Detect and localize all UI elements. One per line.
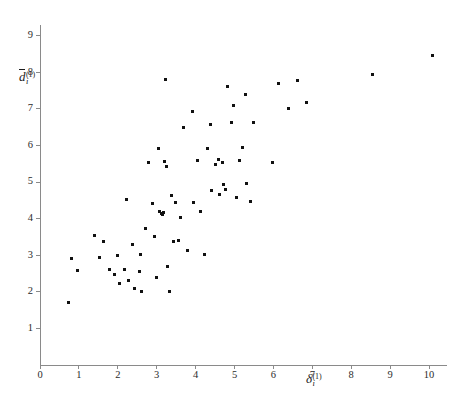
data-point <box>252 121 255 124</box>
y-tick-label: 5 <box>28 175 33 186</box>
y-tick-label: 2 <box>28 285 33 296</box>
y-axis-superscript: (1) <box>26 70 35 79</box>
data-point <box>162 211 165 214</box>
data-point <box>133 287 136 290</box>
data-point <box>140 290 143 293</box>
data-point <box>305 101 308 104</box>
data-point <box>371 73 374 76</box>
x-tick-label: 3 <box>154 369 159 380</box>
data-point <box>155 276 158 279</box>
data-point <box>431 54 434 57</box>
x-tick-label: 5 <box>232 369 237 380</box>
data-point <box>209 123 212 126</box>
data-point <box>226 85 229 88</box>
data-point <box>70 257 73 260</box>
data-point <box>123 268 126 271</box>
data-point <box>199 210 202 213</box>
data-point <box>214 163 217 166</box>
data-point <box>203 253 206 256</box>
data-point <box>98 256 101 259</box>
data-point <box>93 234 96 237</box>
y-axis-symbol: d <box>19 69 26 83</box>
x-tick-label: 4 <box>193 369 199 380</box>
data-point <box>174 201 177 204</box>
y-tick-label: 9 <box>28 29 33 40</box>
data-point <box>144 227 147 230</box>
data-point <box>76 269 79 272</box>
data-point <box>131 243 134 246</box>
data-point <box>177 239 180 242</box>
data-point <box>277 82 280 85</box>
x-axis-ticks: 012345678910 <box>37 365 434 380</box>
data-point <box>170 194 173 197</box>
data-point <box>163 160 166 163</box>
data-point <box>271 161 274 164</box>
data-point <box>165 165 168 168</box>
data-point <box>138 270 141 273</box>
data-point <box>235 196 238 199</box>
data-point <box>102 240 105 243</box>
data-point <box>241 146 244 149</box>
scatter-plot-figure: 012345678910 123456789 di(1) δi(1) <box>0 0 450 407</box>
data-point <box>217 158 220 161</box>
x-tick-label: 1 <box>76 369 81 380</box>
data-point <box>191 110 194 113</box>
x-tick-label: 10 <box>424 369 435 380</box>
y-axis-title: di(1) <box>19 69 35 85</box>
y-tick-label: 7 <box>28 102 33 113</box>
data-point <box>172 240 175 243</box>
data-point <box>125 198 128 201</box>
data-point <box>224 188 227 191</box>
data-point <box>186 249 189 252</box>
data-point <box>249 200 252 203</box>
data-point <box>179 216 182 219</box>
y-tick-label: 3 <box>28 249 33 260</box>
data-point <box>116 254 119 257</box>
y-tick-label: 6 <box>28 139 33 150</box>
y-tick-label: 1 <box>28 322 33 333</box>
data-point <box>287 107 290 110</box>
plot-canvas: 012345678910 123456789 <box>0 0 450 407</box>
data-point <box>182 126 185 129</box>
data-point <box>164 78 167 81</box>
data-point <box>147 161 150 164</box>
x-axis-title: δi(1) <box>306 372 322 387</box>
x-tick-label: 0 <box>37 369 42 380</box>
data-point <box>113 273 116 276</box>
data-point <box>139 253 142 256</box>
data-point <box>153 235 156 238</box>
data-point <box>210 189 213 192</box>
data-point <box>127 279 130 282</box>
axes-group <box>40 25 447 365</box>
data-point <box>238 159 241 162</box>
x-tick-label: 9 <box>387 369 392 380</box>
data-point <box>245 182 248 185</box>
data-point <box>192 201 195 204</box>
data-point <box>221 161 224 164</box>
data-point <box>108 268 111 271</box>
data-point <box>166 265 169 268</box>
data-points-group <box>67 54 435 303</box>
y-tick-label: 4 <box>28 212 34 223</box>
data-point <box>232 104 235 107</box>
x-axis-superscript: (1) <box>312 372 321 381</box>
data-point <box>222 183 225 186</box>
data-point <box>296 79 299 82</box>
x-tick-label: 2 <box>115 369 120 380</box>
data-point <box>206 147 209 150</box>
data-point <box>218 193 221 196</box>
data-point <box>151 202 154 205</box>
data-point <box>67 301 70 304</box>
data-point <box>118 282 121 285</box>
data-point <box>157 147 160 150</box>
data-point <box>244 93 247 96</box>
data-point <box>230 121 233 124</box>
data-point <box>196 159 199 162</box>
data-point <box>168 290 171 293</box>
x-tick-label: 6 <box>271 369 276 380</box>
x-tick-label: 8 <box>349 369 354 380</box>
